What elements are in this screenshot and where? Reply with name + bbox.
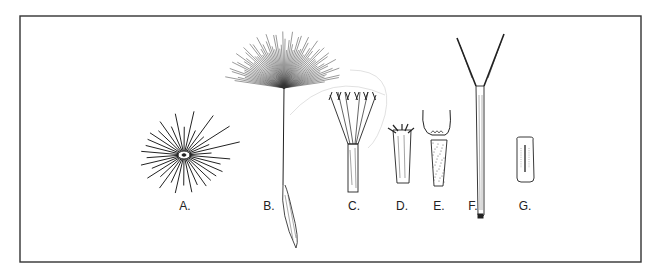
figure-frame bbox=[20, 16, 641, 262]
label-g: G. bbox=[519, 199, 532, 213]
specimen-a-radial-pappus bbox=[141, 111, 240, 193]
specimen-d-achene bbox=[388, 124, 414, 183]
botanical-figure bbox=[0, 0, 660, 274]
specimen-c-floret bbox=[329, 70, 387, 192]
specimen-b-plumed-seed bbox=[225, 31, 385, 248]
label-b: B. bbox=[263, 199, 274, 213]
label-c: C. bbox=[348, 199, 360, 213]
label-d: D. bbox=[396, 199, 408, 213]
label-a: A. bbox=[179, 199, 190, 213]
specimen-e-achene bbox=[423, 110, 451, 186]
label-e: E. bbox=[433, 199, 444, 213]
specimen-f-awned-achene bbox=[457, 34, 504, 218]
label-f: F. bbox=[468, 199, 477, 213]
specimen-g-seed bbox=[517, 137, 534, 182]
